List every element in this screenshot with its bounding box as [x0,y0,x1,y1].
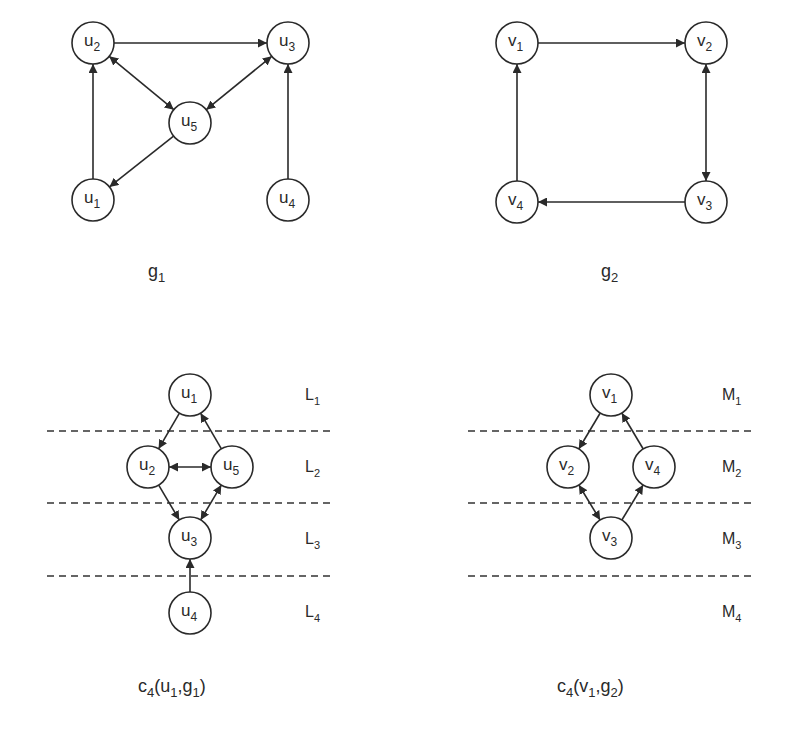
level-label: M3 [722,530,741,551]
graph-caption: c4(u1,g1) [138,676,206,700]
node-u3: u3 [169,517,211,559]
bidirectional-edge [109,56,174,109]
node-u5: u5 [169,102,211,144]
level-label: L4 [305,603,320,624]
bidirectional-edge [206,56,271,109]
level-label: L2 [305,458,320,479]
node-v3: v3 [590,517,632,559]
node-u4: u4 [267,179,309,221]
layered-graph-c4-v1-g2: M1M2M3M4v1v2v4v3c4(v1,g2) [468,374,752,700]
graph-diagram-canvas: u1u2u3u4u5g1 v1v2v3v4g2 L1L2L3L4u1u2u5u3… [0,0,792,738]
node-v4: v4 [633,446,675,488]
node-v2: v2 [685,22,727,64]
graph-g2: v1v2v3v4g2 [496,22,727,285]
node-v1: v1 [590,374,632,416]
node-u3: u3 [267,22,309,64]
level-label: M1 [722,386,741,407]
layered-graph-c4-u1-g1: L1L2L3L4u1u2u5u3u4c4(u1,g1) [47,374,334,700]
node-u2: u2 [72,22,114,64]
level-label: M2 [722,458,741,479]
node-u5: u5 [211,446,253,488]
directed-edge [109,136,173,187]
node-u1: u1 [169,374,211,416]
node-u4: u4 [169,592,211,634]
node-u2: u2 [127,446,169,488]
node-v1: v1 [496,22,538,64]
level-label: L3 [305,530,320,551]
level-label: M4 [722,603,741,624]
graph-g1: u1u2u3u4u5g1 [72,22,309,285]
level-label: L1 [305,386,320,407]
node-v2: v2 [547,446,589,488]
graph-caption: c4(v1,g2) [557,676,624,700]
graph-caption: g2 [601,261,618,285]
node-v4: v4 [496,181,538,223]
node-v3: v3 [685,181,727,223]
graph-caption: g1 [148,261,165,285]
node-u1: u1 [72,179,114,221]
